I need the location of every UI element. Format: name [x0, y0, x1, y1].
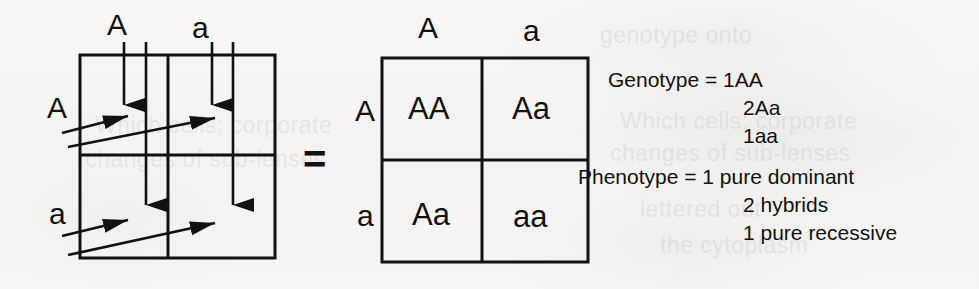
horizontal-arrow-row-A-long — [68, 118, 215, 147]
left-col-header-0: A — [107, 10, 127, 40]
figure-canvas: genotype onto Which cells; corporate cha… — [0, 0, 979, 289]
punnett-cell-0-1: Aa — [512, 93, 550, 124]
equals-sign: = — [303, 139, 326, 179]
phenotype-line-1: 2 hybrids — [743, 194, 828, 215]
right-row-header-1: a — [357, 201, 374, 231]
genotype-line-1: 2Aa — [743, 97, 780, 118]
genotype-line-2: 1aa — [743, 125, 778, 146]
genotype-heading: Genotype = 1AA — [608, 69, 763, 90]
punnett-cell-1-1: aa — [513, 201, 547, 232]
phenotype-line-2: 1 pure recessive — [743, 222, 897, 243]
horizontal-arrow-row-a-short — [62, 220, 128, 236]
left-col-header-1: a — [192, 13, 209, 43]
punnett-cell-0-0: AA — [408, 93, 449, 124]
right-row-header-0: A — [355, 96, 375, 126]
right-col-header-1: a — [523, 16, 540, 46]
left-row-header-0: A — [47, 93, 67, 123]
right-col-header-0: A — [418, 13, 438, 43]
left-row-header-1: a — [49, 199, 66, 229]
horizontal-arrow-row-A-short — [62, 116, 128, 133]
punnett-cell-1-0: Aa — [412, 199, 450, 230]
diagram-vector-layer — [0, 0, 979, 289]
phenotype-heading: Phenotype = 1 pure dominant — [578, 166, 854, 187]
left-square-outline — [80, 55, 275, 258]
